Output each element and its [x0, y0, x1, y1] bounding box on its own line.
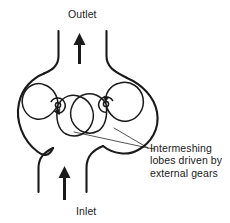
callout-line-3: external gears — [150, 167, 222, 179]
outlet-arrow-icon — [74, 33, 86, 64]
right-rotor-body — [71, 82, 144, 133]
inlet-pipe-right-wall — [87, 146, 104, 192]
leader-line-to-right-lobe — [114, 128, 148, 148]
inlet-arrow-icon — [59, 166, 71, 200]
leader-line-to-left-lobe — [74, 132, 148, 148]
callout-annotation: Intermeshing lobes driven by external ge… — [150, 142, 222, 179]
callout-line-1: Intermeshing — [150, 142, 222, 154]
flow-arrows — [59, 33, 86, 200]
outlet-pipe-left-wall — [44, 31, 59, 74]
pump-diagram-svg — [0, 0, 230, 223]
outlet-label: Outlet — [68, 8, 97, 20]
rotor-shafts — [55, 101, 108, 107]
callout-line-2: lobes driven by — [150, 154, 222, 166]
inlet-label: Inlet — [76, 205, 96, 217]
right-rotor — [71, 82, 144, 133]
outlet-pipe-right-wall — [107, 31, 128, 78]
outlet-pipe — [44, 31, 127, 78]
lobe-pump-figure: Outlet Inlet Intermeshing lobes driven b… — [0, 0, 230, 223]
pump-housing — [18, 74, 158, 155]
